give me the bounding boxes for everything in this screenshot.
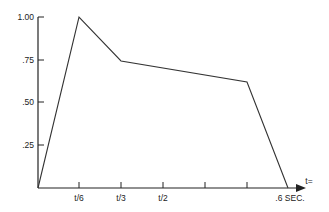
x-label-end: .6 SEC.: [275, 193, 304, 203]
y-label-0.50: .50: [22, 97, 34, 107]
x-label-t2: t/2: [158, 193, 168, 203]
y-label-1.00: 1.00: [17, 12, 34, 22]
y-label-0.25: .25: [22, 140, 34, 150]
x-label-t6: t/6: [74, 193, 84, 203]
x-label-t3: t/3: [116, 193, 126, 203]
x-axis-name: t=: [305, 176, 312, 186]
envelope-chart: 1.00 .75 .50 .25 t/6 t/3 t/2 .6 SEC. t=: [0, 0, 329, 212]
y-label-0.75: .75: [22, 55, 34, 65]
envelope-line: [38, 17, 288, 188]
